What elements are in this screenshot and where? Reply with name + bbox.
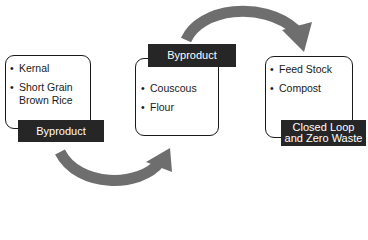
stage-2-label: Byproduct [148,44,236,67]
stage-2-list: Couscous Flour [141,82,221,120]
stage-3-label-line2: and Zero Waste [285,133,363,144]
list-item: Compost [270,82,352,95]
arrow-stage1-to-stage2 [60,148,172,180]
list-item: Flour [141,101,221,114]
list-item: Feed Stock [270,63,352,76]
stage-1-label: Byproduct [18,120,104,142]
stage-3-list: Feed Stock Compost [270,63,352,101]
stage-3-label: Closed Loop and Zero Waste [281,120,366,146]
stage-1-list: Kernal Short Grain Brown Rice [10,62,90,113]
list-item: Kernal [10,62,90,75]
list-item: Couscous [141,82,221,95]
list-item: Short Grain Brown Rice [10,81,90,107]
